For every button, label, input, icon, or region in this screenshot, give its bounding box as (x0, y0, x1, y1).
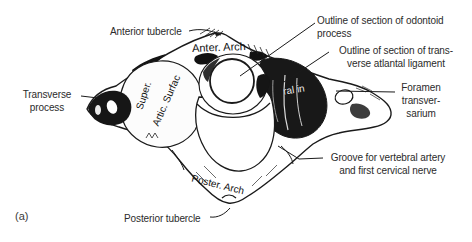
figure-atlas-vertebra-superior-view: Anterior tubercle Outline of section of … (0, 0, 472, 242)
label-groove-line1: Groove for vertebral artery (324, 151, 452, 164)
leader-posterior-tubercle (210, 208, 230, 217)
label-anterior-tubercle: Anterior tubercle (110, 25, 182, 38)
label-foramen-transversarium: Foramen transver- sarium (396, 81, 446, 120)
label-ligament-outline: Outline of section of trans- verse atlan… (330, 44, 462, 70)
label-transverse-line2: process (13, 101, 81, 114)
label-transverse-process: Transverse process (13, 88, 81, 114)
label-odontoid-outline: Outline of section of odontoid process (317, 14, 444, 40)
label-foramen-line3: sarium (396, 107, 446, 120)
inscription-anterior-arch: Anter. Arch (192, 40, 246, 54)
label-ligament-outline-line2: verse atlantal ligament (330, 57, 462, 70)
label-foramen-line1: Foramen (396, 81, 446, 94)
label-odontoid-outline-line1: Outline of section of odontoid (317, 14, 444, 27)
label-foramen-line2: transver- (396, 94, 446, 107)
figure-caption-marker: (a) (15, 210, 28, 222)
left-process-notch (95, 105, 101, 115)
label-ligament-outline-line1: Outline of section of trans- (330, 44, 462, 57)
label-posterior-tubercle: Posterior tubercle (124, 212, 201, 225)
odontoid-section-circle (210, 59, 254, 103)
label-groove-line2: and first cervical nerve (324, 164, 452, 177)
label-transverse-line1: Transverse (13, 88, 81, 101)
label-odontoid-outline-line2: process (317, 27, 444, 40)
label-groove: Groove for vertebral artery and first ce… (324, 151, 452, 177)
